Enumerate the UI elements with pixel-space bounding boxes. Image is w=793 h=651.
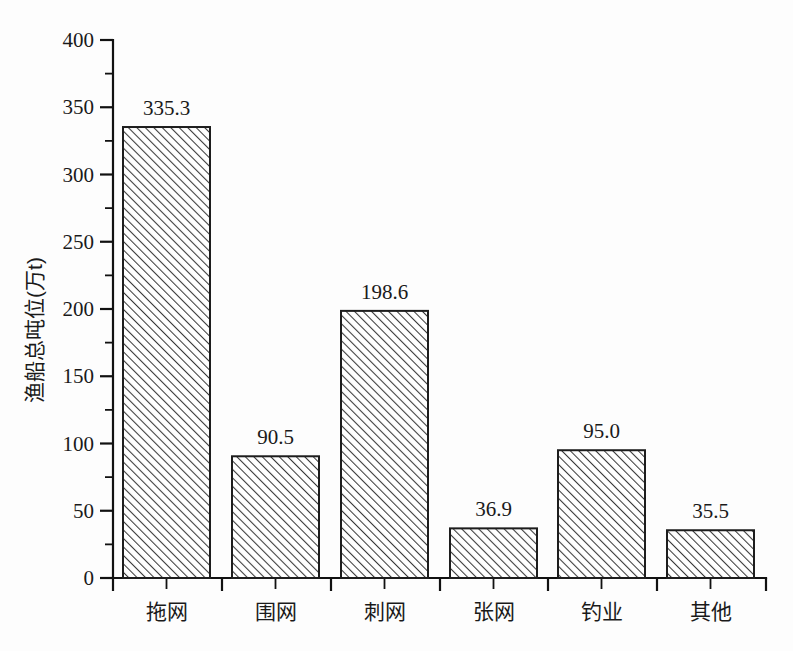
- y-tick-label: 50: [73, 499, 94, 523]
- x-category-label: 刺网: [364, 600, 406, 623]
- x-category-label: 拖网: [146, 600, 188, 623]
- y-axis-title: 渔船总吨位(万t): [23, 257, 46, 403]
- bar-value-label: 95.0: [583, 419, 620, 443]
- bar-value-label: 335.3: [143, 96, 190, 120]
- bar-item[interactable]: [450, 528, 537, 578]
- y-tick-label: 400: [63, 28, 95, 52]
- bar-item[interactable]: [667, 530, 754, 578]
- x-category-label: 钓业: [581, 600, 623, 623]
- y-tick-label: 100: [63, 432, 95, 456]
- bar-item[interactable]: [232, 456, 319, 578]
- y-tick-label: 200: [63, 297, 95, 321]
- chart-figure: 0 50 100 150 200 250 300 350 400 渔船总吨位(万…: [0, 0, 793, 651]
- bar-item[interactable]: [341, 311, 428, 578]
- x-category-label: 其他: [690, 600, 732, 623]
- bar-item[interactable]: [123, 127, 210, 578]
- y-tick-label: 250: [63, 230, 95, 254]
- bar-item[interactable]: [558, 450, 645, 578]
- y-tick-label: 150: [63, 364, 95, 388]
- bar-value-label: 36.9: [475, 497, 512, 521]
- y-tick-label: 300: [63, 163, 95, 187]
- x-category-label: 张网: [473, 600, 515, 623]
- bar-value-label: 90.5: [257, 425, 294, 449]
- bar-value-label: 35.5: [692, 499, 729, 523]
- y-tick-label: 350: [63, 95, 95, 119]
- bar-value-label: 198.6: [361, 280, 408, 304]
- y-tick-label: 0: [84, 566, 95, 590]
- x-category-label: 围网: [255, 600, 297, 623]
- bar-chart-canvas: 0 50 100 150 200 250 300 350 400 渔船总吨位(万…: [0, 0, 793, 651]
